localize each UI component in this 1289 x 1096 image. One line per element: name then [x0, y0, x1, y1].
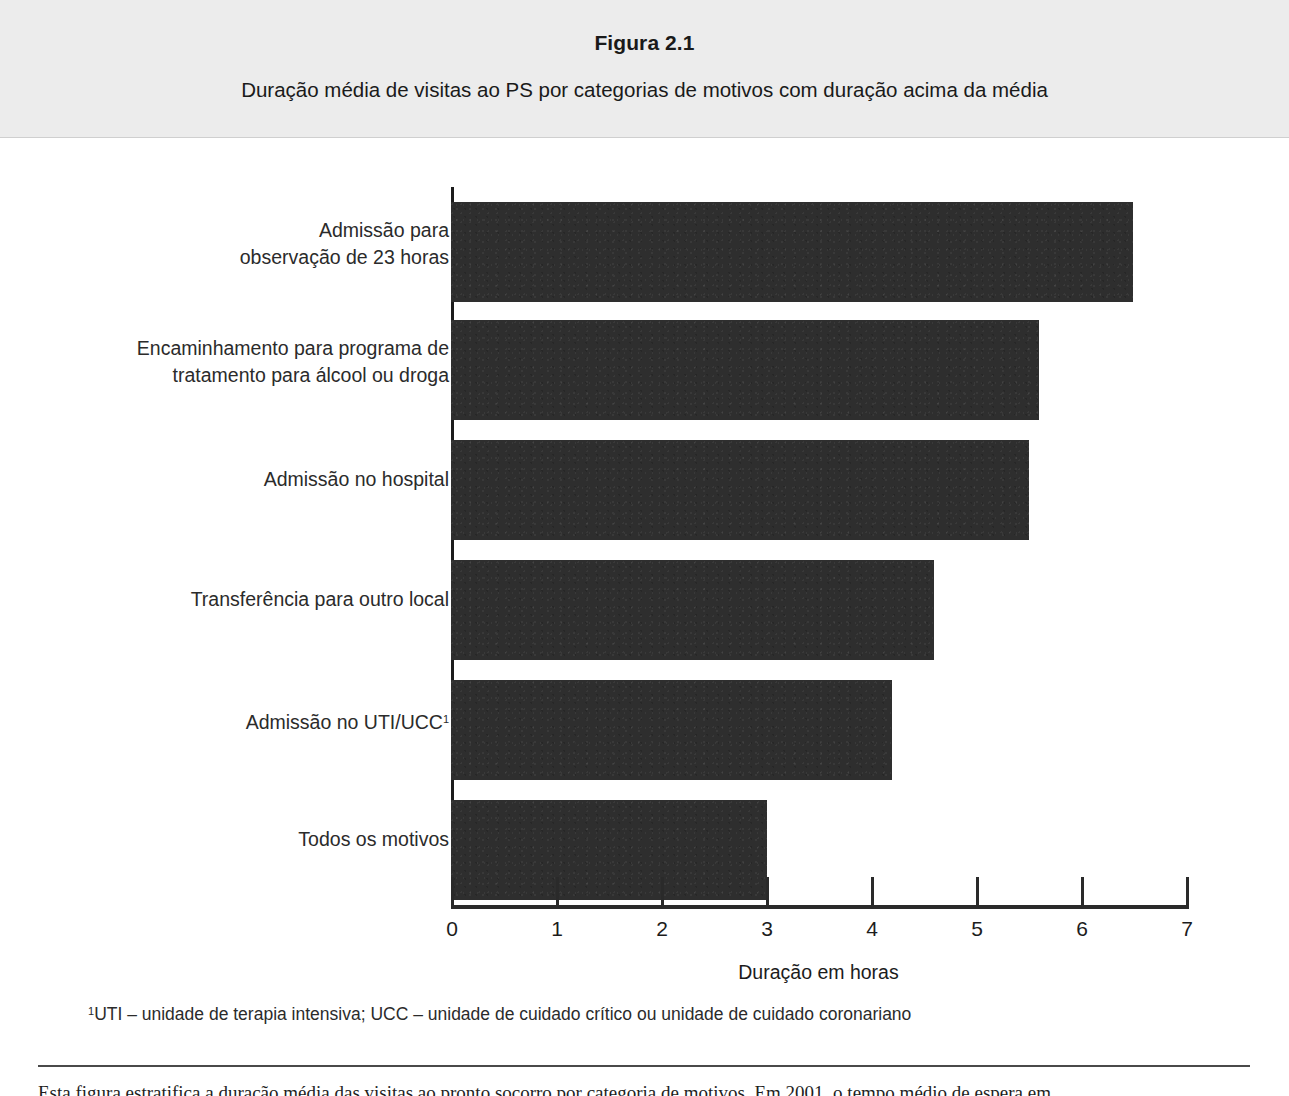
bar-admissao-hospital[interactable]: [451, 440, 1029, 540]
figure-header-band: Figura 2.1 Duração média de visitas ao P…: [0, 0, 1289, 138]
category-label-3: Transferência para outro local: [29, 586, 449, 613]
x-tick-label-0: 0: [432, 917, 472, 941]
x-tick-mark-0: [451, 877, 454, 907]
x-tick-mark-3: [766, 877, 769, 907]
bar-encaminhamento-tratamento[interactable]: [451, 320, 1039, 420]
x-tick-label-3: 3: [747, 917, 787, 941]
body-paragraph: Esta figura estratifica a duração média …: [38, 1082, 1258, 1096]
bar-transferencia-outro-local[interactable]: [451, 560, 934, 660]
category-label-1: Encaminhamento para programa de tratamen…: [9, 335, 449, 389]
x-tick-label-4: 4: [852, 917, 892, 941]
bar-todos-os-motivos[interactable]: [451, 800, 767, 900]
figure-title: Duração média de visitas ao PS por categ…: [0, 78, 1289, 102]
bar-chart: Admissão para observação de 23 horas Enc…: [0, 137, 1289, 957]
x-tick-label-7: 7: [1167, 917, 1207, 941]
bar-admissao-uti-ucc[interactable]: [451, 680, 892, 780]
plot-area: [451, 190, 1186, 905]
x-tick-mark-5: [976, 877, 979, 907]
category-label-2: Admissão no hospital: [69, 466, 449, 493]
bar-admissao-observacao-23h[interactable]: [451, 202, 1133, 302]
x-tick-label-5: 5: [957, 917, 997, 941]
x-tick-label-2: 2: [642, 917, 682, 941]
x-tick-mark-6: [1081, 877, 1084, 907]
horizontal-rule: [38, 1065, 1250, 1067]
x-tick-label-1: 1: [537, 917, 577, 941]
category-label-0: Admissão para observação de 23 horas: [69, 217, 449, 271]
x-tick-mark-4: [871, 877, 874, 907]
category-label-4-superscript: 1: [443, 713, 449, 725]
figure-number: Figura 2.1: [0, 31, 1289, 55]
x-axis-line: [451, 905, 1189, 909]
x-tick-mark-7: [1186, 877, 1189, 907]
category-label-4: Admissão no UTI/UCC1: [69, 706, 449, 736]
x-axis-title: Duração em horas: [451, 961, 1186, 984]
x-tick-mark-2: [661, 877, 664, 907]
footnote: 1UTI – unidade de terapia intensiva; UCC…: [88, 1004, 911, 1025]
footnote-text: UTI – unidade de terapia intensiva; UCC …: [94, 1004, 911, 1024]
category-label-5: Todos os motivos: [69, 826, 449, 853]
x-tick-mark-1: [556, 877, 559, 907]
x-tick-label-6: 6: [1062, 917, 1102, 941]
